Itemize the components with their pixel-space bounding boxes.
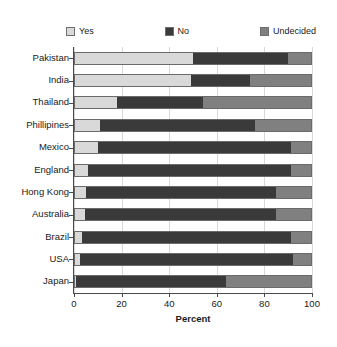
legend-swatch-yes — [66, 27, 75, 36]
category-label-hong-kong: Hong Kong — [1, 187, 69, 197]
bar-segment-undecided — [291, 164, 312, 177]
bar-row — [74, 52, 312, 65]
bar-track — [74, 208, 312, 221]
stacked-bar-chart: Yes No Undecided PakistanIndiaThailandPh… — [0, 0, 337, 347]
x-tick-100 — [312, 293, 313, 297]
category-label-phillipines: Phillipines — [1, 120, 69, 130]
x-tick-0 — [74, 293, 75, 297]
bar-segment-no — [117, 96, 203, 109]
bar-row — [74, 96, 312, 109]
legend-label-undecided: Undecided — [273, 27, 316, 36]
bar-segment-undecided — [293, 253, 312, 266]
category-label-japan: Japan — [1, 276, 69, 286]
category-label-england: England — [1, 165, 69, 175]
bar-track — [74, 186, 312, 199]
bar-track — [74, 74, 312, 87]
bar-row — [74, 74, 312, 87]
bar-segment-no — [98, 141, 291, 154]
bar-segment-undecided — [226, 275, 312, 288]
bar-segment-no — [80, 253, 293, 266]
y-tick-australia — [69, 215, 73, 216]
bar-track — [74, 119, 312, 132]
bar-segment-no — [88, 164, 290, 177]
legend-swatch-no — [165, 27, 174, 36]
y-tick-mexico — [69, 148, 73, 149]
y-axis-category-labels: PakistanIndiaThailandPhillipinesMexicoEn… — [0, 47, 69, 293]
gridline-100 — [312, 47, 313, 293]
legend-label-no: No — [178, 27, 190, 36]
bar-segment-undecided — [276, 186, 312, 199]
bar-segment-no — [193, 52, 288, 65]
bar-segment-yes — [74, 141, 98, 154]
x-tick-label-80: 80 — [259, 298, 270, 309]
bar-segment-yes — [74, 74, 191, 87]
bar-row — [74, 141, 312, 154]
bar-segment-yes — [74, 164, 88, 177]
bar-segment-undecided — [276, 208, 312, 221]
bar-row — [74, 208, 312, 221]
x-tick-label-0: 0 — [71, 298, 76, 309]
x-tick-label-60: 60 — [212, 298, 223, 309]
x-axis-line — [73, 293, 312, 294]
y-tick-brazil — [69, 237, 73, 238]
y-tick-india — [69, 81, 73, 82]
bar-segment-yes — [74, 186, 86, 199]
category-label-brazil: Brazil — [1, 232, 69, 242]
bar-segment-no — [76, 275, 226, 288]
chart-legend: Yes No Undecided — [66, 23, 324, 39]
bar-track — [74, 96, 312, 109]
x-axis-tick-labels: 020406080100 — [74, 298, 312, 310]
x-tick-20 — [122, 293, 123, 297]
legend-item-yes: Yes — [66, 27, 94, 36]
bar-track — [74, 52, 312, 65]
x-tick-60 — [217, 293, 218, 297]
bar-track — [74, 231, 312, 244]
y-tick-japan — [69, 282, 73, 283]
legend-item-undecided: Undecided — [260, 27, 316, 36]
bar-track — [74, 164, 312, 177]
x-tick-label-40: 40 — [164, 298, 175, 309]
bar-row — [74, 275, 312, 288]
category-label-india: India — [1, 75, 69, 85]
bar-segment-no — [191, 74, 251, 87]
bar-segment-no — [86, 186, 276, 199]
y-tick-hong-kong — [69, 192, 73, 193]
category-label-mexico: Mexico — [1, 142, 69, 152]
y-tick-england — [69, 170, 73, 171]
x-tick-40 — [169, 293, 170, 297]
bar-segment-undecided — [250, 74, 312, 87]
plot-area — [74, 47, 312, 293]
bar-track — [74, 141, 312, 154]
bar-segment-undecided — [291, 141, 312, 154]
legend-label-yes: Yes — [79, 27, 94, 36]
bar-segment-no — [85, 208, 277, 221]
y-tick-usa — [69, 259, 73, 260]
bar-track — [74, 275, 312, 288]
bar-segment-no — [82, 231, 290, 244]
bar-row — [74, 231, 312, 244]
bar-segment-yes — [74, 208, 85, 221]
x-tick-label-20: 20 — [116, 298, 127, 309]
y-tick-phillipines — [69, 125, 73, 126]
bar-segment-undecided — [255, 119, 312, 132]
x-tick-80 — [264, 293, 265, 297]
category-label-thailand: Thailand — [1, 97, 69, 107]
bar-row — [74, 186, 312, 199]
legend-swatch-undecided — [260, 27, 269, 36]
bar-segment-no — [100, 119, 255, 132]
category-label-pakistan: Pakistan — [1, 53, 69, 63]
category-label-australia: Australia — [1, 209, 69, 219]
x-tick-label-100: 100 — [304, 298, 320, 309]
bar-segment-undecided — [291, 231, 312, 244]
bar-segment-yes — [74, 96, 117, 109]
bar-row — [74, 164, 312, 177]
bar-row — [74, 253, 312, 266]
bar-segment-yes — [74, 52, 193, 65]
bar-segment-undecided — [203, 96, 312, 109]
legend-item-no: No — [165, 27, 190, 36]
bar-segment-yes — [74, 119, 100, 132]
category-label-usa: USA — [1, 254, 69, 264]
x-axis-title: Percent — [74, 313, 312, 324]
y-tick-pakistan — [69, 58, 73, 59]
bar-track — [74, 253, 312, 266]
